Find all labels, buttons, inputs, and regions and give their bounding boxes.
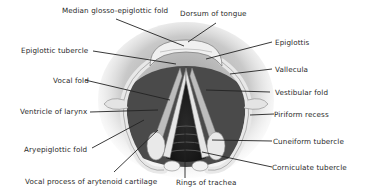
label-vocal-process: Vocal process of arytenoid cartilage [25, 177, 157, 186]
label-corniculate-tubercle: Corniculate tubercle [272, 163, 347, 172]
label-vallecula: Vallecula [275, 65, 308, 74]
label-vestibular-fold: Vestibular fold [275, 88, 328, 97]
label-ventricle-of-larynx: Ventricle of larynx [20, 107, 87, 116]
label-cuneiform-tubercle: Cuneiform tubercle [273, 137, 344, 146]
label-piriform-recess: Piriform recess [274, 110, 329, 119]
label-median-glosso-epiglottic-fold: Median glosso-epiglottic fold [62, 6, 168, 15]
label-epiglottic-tubercle: Epiglottic tubercle [21, 46, 88, 55]
label-dorsum-of-tongue: Dorsum of tongue [180, 9, 247, 18]
label-aryepiglottic-fold: Aryepiglottic fold [24, 145, 87, 154]
label-rings-of-trachea: Rings of trachea [176, 178, 236, 187]
larynx-diagram: Median glosso-epiglottic fold Dorsum of … [0, 0, 366, 196]
label-vocal-fold: Vocal fold [53, 76, 89, 85]
label-epiglottis: Epiglottis [275, 38, 309, 47]
